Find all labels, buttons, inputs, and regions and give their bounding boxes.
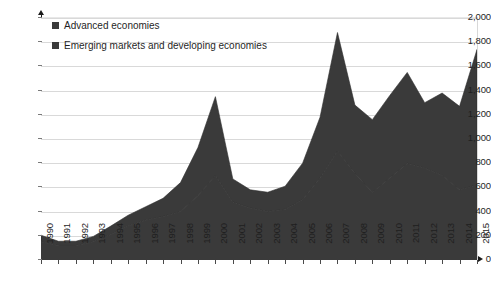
y-axis-tick-label: 1,400 — [455, 85, 491, 94]
y-axis-tick-mark — [38, 235, 42, 236]
x-axis-tick-mark — [425, 260, 426, 264]
y-axis-tick-label: 1,200 — [455, 109, 491, 118]
legend-label: Advanced economies — [64, 20, 160, 31]
x-axis-tick-mark — [111, 260, 112, 264]
y-axis-tick-mark — [38, 259, 42, 260]
x-axis-tick-mark — [372, 260, 373, 264]
x-axis-tick-mark — [58, 260, 59, 264]
x-axis-tick-mark — [303, 260, 304, 264]
x-axis-tick-mark — [285, 260, 286, 264]
x-axis-tick-mark — [181, 260, 182, 264]
x-axis-tick-mark — [128, 260, 129, 264]
legend-swatch-icon — [52, 22, 59, 29]
y-axis-tick-label: 600 — [455, 181, 491, 190]
y-axis-tick-mark — [38, 90, 42, 91]
x-axis-tick-mark — [215, 260, 216, 264]
x-axis-tick-mark — [163, 260, 164, 264]
y-axis-tick-mark — [38, 114, 42, 115]
legend-label: Emerging markets and developing economie… — [64, 40, 267, 51]
y-axis-tick-label: 0 — [455, 254, 491, 263]
y-axis-tick-label: 800 — [455, 157, 491, 166]
x-axis-tick-mark — [390, 260, 391, 264]
y-axis-tick-label: 1,600 — [455, 60, 491, 69]
x-axis-tick-mark — [250, 260, 251, 264]
y-axis-tick-mark — [38, 138, 42, 139]
y-axis-tick-mark — [38, 186, 42, 187]
x-axis-tick-mark — [146, 260, 147, 264]
y-axis-tick-mark — [38, 162, 42, 163]
y-axis-tick-label: 1,000 — [455, 133, 491, 142]
legend-item-advanced-economies: Advanced economies — [52, 20, 267, 31]
y-axis-tick-mark — [38, 17, 42, 18]
legend-item-emerging-markets: Emerging markets and developing economie… — [52, 40, 267, 51]
chart-legend: Advanced economies Emerging markets and … — [52, 20, 267, 60]
x-axis-tick-mark — [355, 260, 356, 264]
y-axis-tick-mark — [38, 211, 42, 212]
y-axis-tick-label: 200 — [455, 230, 491, 239]
y-axis-tick-label: 1,800 — [455, 36, 491, 45]
y-axis-tick-label: 2,000 — [455, 12, 491, 21]
y-axis-tick-mark — [38, 41, 42, 42]
legend-swatch-icon — [52, 42, 59, 49]
x-axis-tick-mark — [76, 260, 77, 264]
y-axis-tick-label: 400 — [455, 206, 491, 215]
x-axis-tick-mark — [268, 260, 269, 264]
x-axis-tick-mark — [337, 260, 338, 264]
x-axis-tick-mark — [93, 260, 94, 264]
stacked-area-chart: 02004006008001,0001,2001,4001,6001,8002,… — [0, 0, 491, 302]
x-axis-tick-mark — [233, 260, 234, 264]
x-axis-tick-mark — [442, 260, 443, 264]
y-axis-tick-mark — [38, 65, 42, 66]
x-axis-tick-mark — [407, 260, 408, 264]
x-axis-tick-mark — [198, 260, 199, 264]
x-axis-tick-mark — [320, 260, 321, 264]
